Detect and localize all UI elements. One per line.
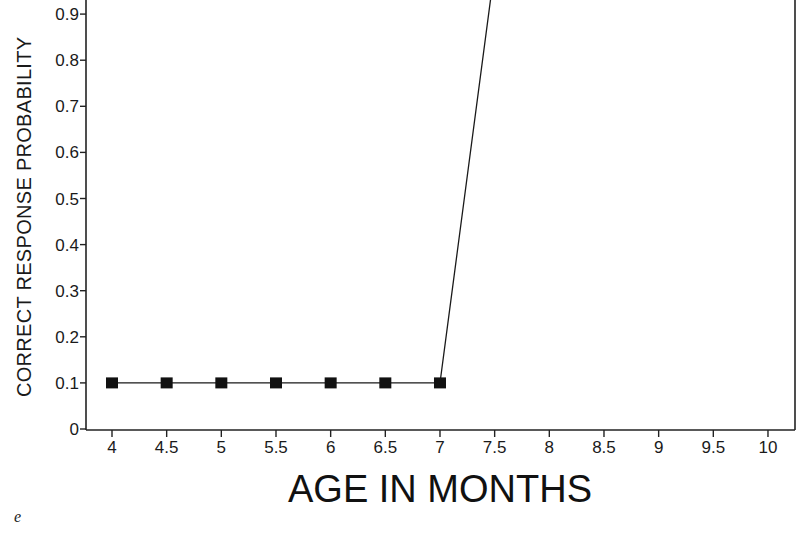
x-tick-label: 7.5	[483, 438, 507, 457]
x-tick-label: 8.5	[592, 438, 616, 457]
x-tick-label: 5	[217, 438, 226, 457]
square-marker	[215, 377, 227, 388]
x-tick-label: 6	[326, 438, 335, 457]
y-tick-label: 0	[70, 420, 79, 439]
y-tick-label: 0.5	[55, 190, 79, 209]
x-tick-label: 9.5	[701, 438, 725, 457]
x-axis-title: AGE IN MONTHS	[288, 468, 592, 510]
y-axis-ticks: 00.10.20.30.40.50.60.70.80.9	[55, 5, 86, 439]
x-tick-label: 4	[107, 438, 116, 457]
square-marker	[325, 377, 337, 388]
panel-label: e	[14, 508, 21, 525]
y-axis-title: CORRECT RESPONSE PROBABILITY	[13, 37, 35, 397]
series-line	[112, 0, 495, 383]
line-chart: 00.10.20.30.40.50.60.70.80.9 44.555.566.…	[0, 0, 801, 534]
y-tick-label: 0.3	[55, 282, 79, 301]
square-marker	[379, 377, 391, 388]
square-marker	[434, 377, 446, 388]
y-tick-label: 0.1	[55, 374, 79, 393]
x-tick-label: 7	[435, 438, 444, 457]
x-tick-label: 8	[545, 438, 554, 457]
square-marker	[106, 377, 118, 388]
y-tick-label: 0.4	[55, 236, 79, 255]
square-marker	[161, 377, 173, 388]
y-tick-label: 0.7	[55, 97, 79, 116]
plot-area	[106, 0, 501, 388]
y-tick-label: 0.2	[55, 328, 79, 347]
series-markers	[106, 0, 501, 388]
x-axis-ticks: 44.555.566.577.588.599.510	[107, 430, 777, 457]
x-tick-label: 4.5	[155, 438, 179, 457]
y-tick-label: 0.6	[55, 143, 79, 162]
x-tick-label: 9	[654, 438, 663, 457]
x-tick-label: 5.5	[264, 438, 288, 457]
square-marker	[270, 377, 282, 388]
axes	[86, 0, 795, 430]
x-tick-label: 10	[759, 438, 778, 457]
y-tick-label: 0.8	[55, 51, 79, 70]
y-tick-label: 0.9	[55, 5, 79, 24]
x-tick-label: 6.5	[374, 438, 398, 457]
